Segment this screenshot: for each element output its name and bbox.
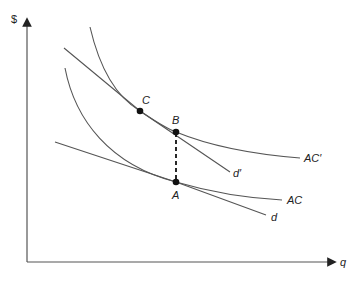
ac-label: AC: [286, 194, 302, 206]
y-axis-label: $: [11, 13, 17, 25]
point-b-label: B: [172, 114, 179, 126]
d-label: d: [271, 211, 278, 223]
point-c-label: C: [142, 94, 150, 106]
point-c: [137, 108, 144, 115]
point-a-label: A: [171, 189, 179, 201]
point-b: [173, 129, 180, 136]
x-axis-label: q: [340, 256, 347, 268]
d-prime-label: d′: [233, 167, 242, 179]
economics-diagram: $ q AC′ d′ AC d C B A: [0, 0, 349, 281]
point-a: [173, 179, 180, 186]
ac-prime-curve: [90, 27, 300, 158]
ac-prime-label: AC′: [303, 152, 322, 164]
